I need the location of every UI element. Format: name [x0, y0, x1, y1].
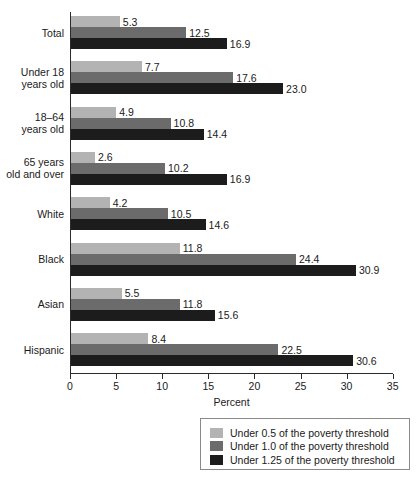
bar-value-label: 5.3: [123, 17, 138, 28]
bar-value-label: 5.5: [125, 288, 140, 299]
bar: [71, 163, 165, 174]
bar-value-label: 2.6: [98, 152, 113, 163]
bar: [71, 61, 142, 72]
bar: [71, 83, 283, 94]
bar: [71, 219, 206, 230]
bar-value-label: 8.4: [151, 334, 166, 345]
bar: [71, 243, 180, 254]
bar-value-label: 30.9: [359, 265, 379, 276]
bar: [71, 16, 120, 27]
bar-value-label: 17.6: [236, 73, 256, 84]
bar: [71, 265, 356, 276]
x-axis-tick-label: 10: [156, 380, 168, 392]
bar-value-label: 10.8: [174, 118, 194, 129]
bar-value-label: 11.8: [183, 243, 203, 254]
legend-label: Under 1.0 of the poverty threshold: [230, 440, 389, 452]
x-axis-tick: [208, 374, 209, 379]
bar: [71, 333, 148, 344]
category-label: Black: [0, 253, 64, 265]
bar-value-label: 30.6: [356, 356, 376, 367]
bar-value-label: 10.2: [168, 163, 188, 174]
bar: [71, 344, 278, 355]
bar: [71, 174, 227, 185]
x-axis-tick: [162, 374, 163, 379]
bar-value-label: 23.0: [286, 84, 306, 95]
category-label: Asian: [0, 298, 64, 310]
x-axis-tick-label: 25: [295, 380, 307, 392]
bar: [71, 152, 95, 163]
bar-value-label: 7.7: [145, 62, 160, 73]
x-axis-tick: [254, 374, 255, 379]
bar: [71, 107, 116, 118]
category-label: Under 18 years old: [0, 66, 64, 90]
x-axis-tick-label: 0: [67, 380, 73, 392]
x-axis-tick: [347, 374, 348, 379]
category-label: 65 years old and over: [0, 156, 64, 180]
category-label: Hispanic: [0, 344, 64, 356]
legend-label: Under 0.5 of the poverty threshold: [230, 427, 389, 439]
bar: [71, 310, 215, 321]
chart-legend: Under 0.5 of the poverty thresholdUnder …: [200, 418, 410, 470]
bar-value-label: 14.6: [209, 220, 229, 231]
x-axis-tick: [301, 374, 302, 379]
category-label: Total: [0, 27, 64, 39]
value-axis-line: [70, 373, 393, 374]
legend-swatch: [210, 441, 223, 451]
bar: [71, 27, 186, 38]
bar: [71, 197, 110, 208]
bar: [71, 72, 233, 83]
bar-value-label: 22.5: [281, 345, 301, 356]
bar: [71, 355, 353, 366]
bar-value-label: 4.2: [113, 198, 128, 209]
bar-value-label: 12.5: [189, 28, 209, 39]
legend-item: Under 1.0 of the poverty threshold: [210, 440, 389, 453]
x-axis-title: Percent: [70, 396, 393, 408]
legend-label: Under 1.25 of the poverty threshold: [230, 454, 395, 466]
category-label: White: [0, 208, 64, 220]
category-label: 18–64 years old: [0, 111, 64, 135]
bar-value-label: 15.6: [218, 310, 238, 321]
bar-value-label: 24.4: [299, 254, 319, 265]
bar-value-label: 16.9: [230, 39, 250, 50]
x-axis-tick-label: 30: [341, 380, 353, 392]
legend-item: Under 1.25 of the poverty threshold: [210, 453, 395, 466]
bar: [71, 208, 168, 219]
legend-swatch: [210, 428, 223, 438]
x-axis-tick: [70, 374, 71, 379]
legend-item: Under 0.5 of the poverty threshold: [210, 426, 389, 439]
x-axis-tick-label: 15: [202, 380, 214, 392]
bar: [71, 118, 171, 129]
bar: [71, 288, 122, 299]
bar-value-label: 4.9: [119, 107, 134, 118]
bar: [71, 254, 296, 265]
bar-value-label: 10.5: [171, 209, 191, 220]
x-axis-tick-label: 35: [387, 380, 399, 392]
legend-swatch: [210, 455, 223, 465]
bar-value-label: 11.8: [183, 299, 203, 310]
poverty-threshold-bar-chart: 05101520253035 Percent Total5.312.516.9U…: [0, 0, 420, 481]
bar-value-label: 14.4: [207, 129, 227, 140]
bar: [71, 38, 227, 49]
x-axis-tick: [116, 374, 117, 379]
bar-value-label: 16.9: [230, 174, 250, 185]
bar: [71, 299, 180, 310]
bar: [71, 129, 204, 140]
x-axis-tick-label: 5: [113, 380, 119, 392]
x-axis-tick: [393, 374, 394, 379]
x-axis-tick-label: 20: [249, 380, 261, 392]
